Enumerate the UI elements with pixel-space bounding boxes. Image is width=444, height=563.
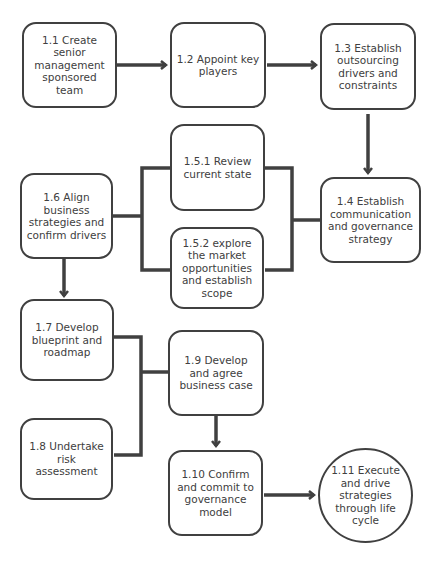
bracket-1-7-1-8-to-1-9: [114, 337, 141, 455]
node-1-5-2-explore-market: 1.5.2 explore the market opportunities a…: [170, 227, 264, 309]
node-label: 1.5.2 explore the market opportunities a…: [176, 237, 258, 300]
node-label: 1.2 Appoint key players: [176, 53, 260, 78]
node-1-4-communication-strategy: 1.4 Establish communication and governan…: [320, 177, 421, 263]
node-label: 1.6 Align business strategies and confir…: [26, 191, 107, 241]
node-1-10-governance-model: 1.10 Confirm and commit to governance mo…: [168, 450, 263, 536]
node-1-6-align-strategies: 1.6 Align business strategies and confir…: [20, 173, 113, 259]
node-1-9-business-case: 1.9 Develop and agree business case: [168, 330, 264, 416]
process-flow-diagram: 1.1 Create senior management sponsored t…: [0, 0, 444, 563]
bracket-1-5-to-1-6: [142, 168, 170, 270]
node-1-8-risk-assessment: 1.8 Undertake risk assessment: [20, 418, 113, 500]
node-1-11-execute-strategies: 1.11 Execute and drive strategies throug…: [318, 448, 413, 543]
node-label: 1.3 Establish outsourcing drivers and co…: [326, 42, 410, 92]
node-1-1-create-team: 1.1 Create senior management sponsored t…: [22, 22, 117, 108]
node-label: 1.7 Develop blueprint and roadmap: [26, 321, 108, 359]
node-1-7-blueprint-roadmap: 1.7 Develop blueprint and roadmap: [20, 299, 114, 381]
node-label: 1.9 Develop and agree business case: [174, 354, 258, 392]
node-label: 1.10 Confirm and commit to governance mo…: [174, 468, 257, 518]
node-label: 1.1 Create senior management sponsored t…: [28, 34, 111, 97]
node-label: 1.5.1 Review current state: [176, 155, 259, 180]
node-1-5-1-review-state: 1.5.1 Review current state: [170, 124, 265, 211]
node-1-2-appoint-key-players: 1.2 Appoint key players: [170, 22, 266, 108]
node-label: 1.4 Establish communication and governan…: [326, 195, 415, 245]
bracket-1-4-to-1-5: [265, 168, 292, 270]
node-label: 1.8 Undertake risk assessment: [26, 440, 107, 478]
node-1-3-establish-drivers: 1.3 Establish outsourcing drivers and co…: [320, 23, 416, 110]
node-label: 1.11 Execute and drive strategies throug…: [328, 464, 403, 527]
